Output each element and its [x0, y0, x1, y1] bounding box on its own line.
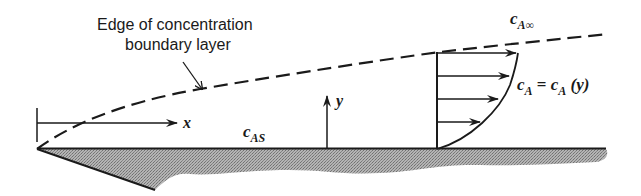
ca-rhs-subscript: A [557, 84, 566, 98]
ca-rhs-argument: (y) [566, 75, 589, 94]
profile-curve [437, 53, 518, 149]
flat-plate [37, 149, 607, 190]
edge-label-line1: Edge of concentration [97, 16, 253, 33]
c-ainf-subscript: A∞ [517, 18, 535, 32]
surface-concentration-label: cAS [243, 122, 266, 145]
edge-label-line2: boundary layer [125, 36, 232, 53]
equals-sign: = [533, 75, 551, 94]
ca-lhs-subscript: A [524, 84, 533, 98]
c-as-subscript: AS [250, 131, 266, 145]
freestream-concentration-label: cA∞ [510, 9, 534, 32]
edge-pointer-arrow [183, 62, 202, 89]
y-axis-label: y [334, 92, 344, 110]
boundary-layer-diagram: Edge of concentration boundary layer x y… [0, 0, 641, 196]
x-axis-label: x [182, 114, 191, 131]
profile-equation-label: cA = cA (y) [517, 75, 589, 98]
